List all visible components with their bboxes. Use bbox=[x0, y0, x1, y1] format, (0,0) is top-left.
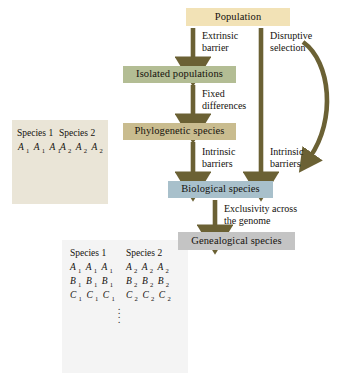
allele-b1-1: B1 bbox=[70, 276, 81, 286]
vertical-ellipsis-icon: .... bbox=[114, 304, 124, 321]
allele-b2-1: B2 bbox=[126, 276, 137, 286]
node-genealogical-species[interactable]: Genealogical species bbox=[178, 232, 295, 250]
edge-label-disruptive-selection-line2: selection bbox=[270, 42, 312, 54]
panel-two-allele-row-C-right: C2 C2 C2 bbox=[126, 290, 171, 304]
allele-b2-2: B2 bbox=[142, 276, 153, 286]
edge-label-disruptive-selection-line1: Disruptive bbox=[270, 30, 312, 42]
panel-two-species-2-label: Species 2 bbox=[126, 248, 162, 258]
allele-a1-2: A1 bbox=[86, 262, 97, 272]
edge-label-intrinsic-barriers-right-line1: Intrinsic bbox=[270, 146, 303, 158]
node-population-label: Population bbox=[215, 12, 262, 23]
edge-label-intrinsic-barriers: Intrinsic barriers bbox=[202, 146, 235, 169]
node-isolated-populations-label: Isolated populations bbox=[136, 69, 223, 80]
node-genealogical-species-label: Genealogical species bbox=[191, 236, 281, 247]
edge-label-exclusivity-line1: Exclusivity across bbox=[224, 203, 297, 215]
edge-label-fixed-differences-line1: Fixed bbox=[202, 88, 246, 100]
panel-two-species-1-label: Species 1 bbox=[70, 248, 106, 258]
edge-label-intrinsic-barriers-right-line2: barriers bbox=[270, 158, 303, 170]
edge-label-exclusivity-across-genome: Exclusivity across the genome bbox=[224, 203, 297, 226]
panel-two-allele-row-B-left: B1 B1 B1 bbox=[70, 276, 113, 290]
edge-label-disruptive-selection: Disruptive selection bbox=[270, 30, 312, 53]
edge-label-intrinsic-barriers-line1: Intrinsic bbox=[202, 146, 235, 158]
diagram-canvas: Population Isolated populations Phylogen… bbox=[0, 0, 349, 380]
allele-a1-3: A1 bbox=[101, 262, 112, 272]
allele-c2-2: C2 bbox=[142, 290, 154, 300]
edge-label-extrinsic-barrier-line1: Extrinsic bbox=[202, 30, 238, 42]
panel-one-species-1-label: Species 1 bbox=[17, 128, 53, 138]
allele-a2-2: A2 bbox=[142, 262, 153, 272]
edge-label-fixed-differences-line2: differences bbox=[202, 100, 246, 112]
edge-label-extrinsic-barrier: Extrinsic barrier bbox=[202, 30, 238, 53]
node-population[interactable]: Population bbox=[186, 8, 290, 26]
node-biological-species-label: Biological species bbox=[181, 184, 260, 195]
node-phylogenetic-species-label: Phylogenetic species bbox=[135, 126, 225, 137]
panel-one-allele-row-A-left: A1 A1 A1 bbox=[18, 142, 61, 156]
edge-label-extrinsic-barrier-line2: barrier bbox=[202, 42, 238, 54]
allele-a1-1: A1 bbox=[70, 262, 81, 272]
allele-b1-2: B1 bbox=[86, 276, 97, 286]
allele-c2-3: C2 bbox=[159, 290, 171, 300]
node-phylogenetic-species[interactable]: Phylogenetic species bbox=[123, 123, 236, 140]
allele-c2-1: C2 bbox=[126, 290, 138, 300]
allele-a2-3: A2 bbox=[157, 262, 168, 272]
panel-one-species-2-label: Species 2 bbox=[59, 128, 95, 138]
panel-two-allele-row-A-right: A2 A2 A2 bbox=[126, 262, 169, 276]
panel-two-background bbox=[62, 240, 188, 373]
edge-label-intrinsic-barriers-right: Intrinsic barriers bbox=[270, 146, 303, 169]
allele-c1-2: C1 bbox=[86, 290, 98, 300]
allele-a2-1: A2 bbox=[60, 142, 71, 152]
allele-a2-1: A2 bbox=[126, 262, 137, 272]
node-biological-species[interactable]: Biological species bbox=[168, 181, 273, 198]
allele-a1-2: A1 bbox=[34, 142, 45, 152]
allele-c1-3: C1 bbox=[103, 290, 115, 300]
allele-b2-3: B2 bbox=[158, 276, 169, 286]
allele-c1-1: C1 bbox=[70, 290, 82, 300]
edge-label-intrinsic-barriers-line2: barriers bbox=[202, 158, 235, 170]
arrow-disruptive-selection-curve bbox=[303, 42, 327, 157]
panel-two-allele-row-A-left: A1 A1 A1 bbox=[70, 262, 113, 276]
panel-one-allele-row-A-right: A2 A2 A2 bbox=[60, 142, 103, 156]
edge-label-fixed-differences: Fixed differences bbox=[202, 88, 246, 111]
panel-two-allele-row-B-right: B2 B2 B2 bbox=[126, 276, 169, 290]
node-isolated-populations[interactable]: Isolated populations bbox=[123, 66, 236, 83]
edge-label-exclusivity-line2: the genome bbox=[224, 215, 297, 227]
panel-two-allele-row-C-left: C1 C1 C1 bbox=[70, 290, 115, 304]
allele-a2-3: A2 bbox=[91, 142, 102, 152]
allele-a1-1: A1 bbox=[18, 142, 29, 152]
allele-a2-2: A2 bbox=[76, 142, 87, 152]
allele-b1-3: B1 bbox=[102, 276, 113, 286]
